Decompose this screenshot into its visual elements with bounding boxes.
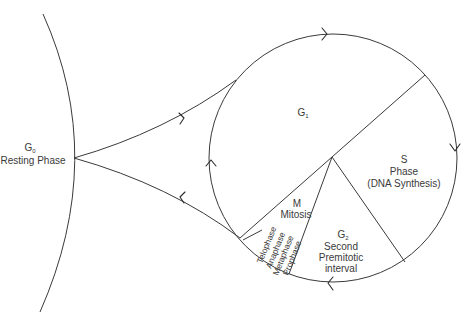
g2-label: G2 (337, 229, 349, 241)
arrow-up-icon (206, 160, 216, 166)
s-description: (DNA Synthesis) (367, 178, 440, 189)
arrow-left-icon (180, 192, 185, 203)
g1-s-divider (332, 75, 425, 157)
s-phase-label: Phase (390, 166, 419, 177)
g2-premitotic-label: Premitotic (319, 252, 363, 263)
g0-to-g1-path (74, 80, 236, 158)
g0-label: G0 (24, 142, 36, 154)
g1-to-g0-path (74, 158, 240, 238)
mitosis-inner-divider (243, 230, 262, 240)
g2-interval-label: interval (325, 263, 357, 274)
arrow-left-icon (328, 277, 333, 290)
g1-label: G1 (297, 107, 309, 119)
m-label: M (293, 198, 301, 209)
cell-cycle-diagram: G0 Resting Phase G1 S Phase (DNA Synthes… (0, 0, 471, 316)
g0-name: Resting Phase (0, 155, 65, 166)
s-label: S (401, 154, 408, 165)
mitosis-label: Mitosis (280, 209, 311, 220)
g2-second-label: Second (324, 241, 358, 252)
m-g1-divider (240, 157, 332, 238)
arrow-down-icon (450, 144, 460, 151)
